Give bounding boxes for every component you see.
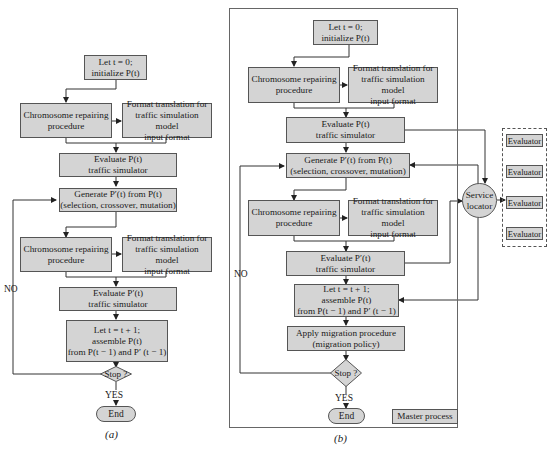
no-label-a: NO xyxy=(4,284,18,294)
init-box-a: Let t = 0; initialize P(t) xyxy=(84,55,147,80)
stop-label-b: Stop ? xyxy=(335,368,358,378)
evaluate-pt-box-a: Evaluate P(t) traffic simulator xyxy=(59,153,177,177)
format-translation-box-b-1: Format translation for traffic simulatio… xyxy=(348,67,438,103)
end-terminal-b: End xyxy=(328,408,365,424)
init-box-b: Let t = 0; initialize P(t) xyxy=(313,20,378,45)
yes-label-b: YES xyxy=(335,393,353,403)
evaluate-pprime-box-b: Evaluate P′(t) traffic simulator xyxy=(286,251,405,276)
migration-box-b: Apply migration procedure (migration pol… xyxy=(287,326,405,351)
end-terminal-a: End xyxy=(96,406,136,422)
master-process-label: Master process xyxy=(392,409,458,424)
generate-box-b: Generate P′(t) from P(t) (selection, cro… xyxy=(286,153,410,178)
evaluator-box-3: Evaluator xyxy=(506,196,543,209)
assemble-box-b: Let t = t + 1; assemble P(t) from P(t − … xyxy=(294,284,399,317)
yes-label-a: YES xyxy=(105,390,123,400)
evaluator-box-2: Evaluator xyxy=(506,165,543,178)
assemble-box-a: Let t = t + 1; assemble P(t) from P(t − … xyxy=(66,320,168,362)
chromosome-repair-box-a-2: Chromosome repairing procedure xyxy=(20,237,112,272)
chromosome-repair-box-b-2: Chromosome repairing procedure xyxy=(248,200,340,236)
chromosome-repair-box-a-1: Chromosome repairing procedure xyxy=(20,103,112,138)
evaluator-box-1: Evaluator xyxy=(506,134,543,147)
sublabel-a: (a) xyxy=(105,428,118,440)
evaluate-pprime-box-a: Evaluate P′(t) traffic simulator xyxy=(59,287,177,311)
chromosome-repair-box-b-1: Chromosome repairing procedure xyxy=(248,67,340,103)
format-translation-box-a-1: Format translation for traffic simulatio… xyxy=(122,103,212,138)
stop-decision-a: Stop ? xyxy=(100,366,132,382)
format-translation-box-b-2: Format translation for traffic simulatio… xyxy=(348,200,438,236)
no-label-b: NO xyxy=(234,269,248,279)
format-translation-box-a-2: Format translation for traffic simulatio… xyxy=(122,237,212,272)
sublabel-b: (b) xyxy=(334,432,347,444)
generate-box-a: Generate P′(t) from P(t) (selection, cro… xyxy=(59,188,177,212)
service-locator-node: Service locator xyxy=(462,183,497,218)
stop-decision-b: Stop ? xyxy=(330,359,362,387)
evaluator-box-4: Evaluator xyxy=(506,227,543,240)
stop-label-a: Stop ? xyxy=(105,369,128,379)
evaluate-pt-box-b: Evaluate P(t) traffic simulator xyxy=(286,117,405,143)
